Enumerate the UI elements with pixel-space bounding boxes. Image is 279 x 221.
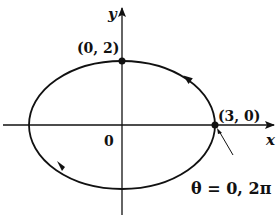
origin-label: 0 bbox=[104, 133, 114, 149]
ellipse-diagram: y x 0 (0, 2) (3, 0) θ = 0, 2π bbox=[0, 0, 279, 221]
point-label-0-2: (0, 2) bbox=[77, 40, 119, 56]
x-axis-label: x bbox=[265, 131, 276, 149]
annotation-pointer bbox=[219, 131, 233, 155]
theta-annotation: θ = 0, 2π bbox=[191, 179, 272, 198]
point-0-2 bbox=[119, 58, 126, 65]
direction-arrow-icon bbox=[57, 161, 65, 171]
y-axis-label: y bbox=[107, 5, 118, 23]
pointer-arrow-icon bbox=[217, 128, 222, 134]
point-label-3-0: (3, 0) bbox=[218, 108, 260, 124]
